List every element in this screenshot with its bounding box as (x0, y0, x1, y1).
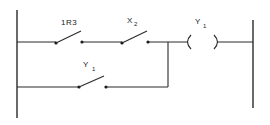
contact-label: Y (83, 60, 89, 69)
contact-blade (56, 31, 81, 43)
contact-x2: X 2 (120, 16, 149, 45)
contact-label: X (127, 16, 133, 25)
rung-1: 1R3 X 2 Y 1 (17, 16, 253, 49)
contact-blade (79, 76, 104, 87)
contact-blade (122, 31, 147, 43)
coil-y1: Y 1 (188, 17, 218, 49)
coil-label: Y (195, 17, 201, 26)
coil-right-arc (214, 35, 218, 49)
rung-2-branch: Y 1 (17, 42, 168, 89)
contact-y1: Y 1 (77, 60, 107, 89)
coil-label-subscript: 1 (203, 23, 207, 29)
contact-1r3: 1R3 (54, 18, 83, 45)
contact-label-subscript: 1 (92, 66, 96, 72)
coil-left-arc (188, 35, 192, 49)
contact-label: 1R3 (61, 18, 77, 27)
contact-label-subscript: 2 (134, 21, 138, 27)
ladder-diagram: 1R3 X 2 Y 1 Y 1 (0, 0, 270, 125)
